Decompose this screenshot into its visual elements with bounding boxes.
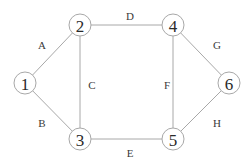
edge-label-b: B (38, 117, 45, 129)
edge-label-a: A (38, 39, 46, 51)
edge-label-e: E (127, 147, 134, 159)
node-label: 3 (76, 131, 85, 150)
nodes-layer: 123456 (14, 14, 240, 150)
edge-g (173, 25, 229, 83)
node-label: 5 (169, 131, 178, 150)
edge-label-c: C (88, 79, 95, 91)
edges-layer (25, 25, 229, 139)
graph-diagram: ABCDEFGH 123456 (0, 0, 251, 162)
node-5: 5 (162, 128, 184, 150)
node-label: 4 (169, 17, 178, 36)
edge-label-g: G (213, 39, 221, 51)
edge-labels-layer: ABCDEFGH (38, 10, 221, 159)
node-1: 1 (14, 72, 36, 94)
node-label: 1 (21, 75, 30, 94)
node-label: 2 (76, 17, 85, 36)
node-label: 6 (225, 75, 234, 94)
node-6: 6 (218, 72, 240, 94)
edge-label-h: H (213, 117, 221, 129)
node-4: 4 (162, 14, 184, 36)
node-2: 2 (69, 14, 91, 36)
edge-b (25, 83, 80, 139)
edge-h (173, 83, 229, 139)
edge-label-d: D (126, 10, 134, 22)
node-3: 3 (69, 128, 91, 150)
edge-a (25, 25, 80, 83)
edge-label-f: F (164, 79, 170, 91)
